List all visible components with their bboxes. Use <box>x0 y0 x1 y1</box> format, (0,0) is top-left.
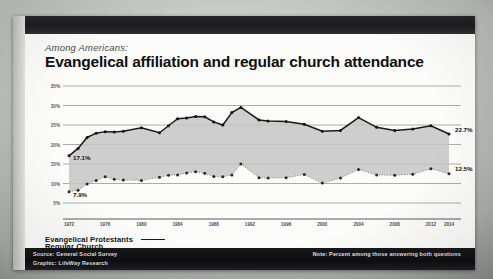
x-axis-tick-label: 1976 <box>100 222 111 226</box>
data-point <box>212 120 215 123</box>
page-title: Evangelical affiliation and regular chur… <box>45 53 424 71</box>
data-point <box>258 176 261 179</box>
data-label: 17.1% <box>73 154 91 161</box>
slide-card: Among Americans: Evangelical affiliation… <box>13 16 475 270</box>
data-point <box>448 132 451 135</box>
footnote: Note: Percent among those answering both… <box>313 251 461 257</box>
slide-content: Among Americans: Evangelical affiliation… <box>25 34 475 248</box>
data-point <box>203 172 206 175</box>
data-point <box>113 131 116 134</box>
data-point <box>267 120 270 123</box>
data-point <box>185 116 188 119</box>
data-point <box>303 123 306 126</box>
data-point <box>357 168 360 171</box>
data-point <box>176 117 179 120</box>
data-point <box>122 130 125 133</box>
data-point <box>230 173 233 176</box>
y-axis-tick-label: 15% <box>51 162 60 167</box>
slide-top-band <box>25 16 475 34</box>
data-point <box>221 124 224 127</box>
y-axis-tick-label: 25% <box>51 123 60 128</box>
data-point <box>393 129 396 132</box>
data-point <box>285 120 288 123</box>
legend-solid-line-icon <box>141 236 167 244</box>
x-axis-tick-label: 2004 <box>353 222 364 226</box>
data-point <box>339 129 342 132</box>
data-point <box>203 115 206 118</box>
data-point <box>393 174 396 177</box>
data-point <box>429 167 432 170</box>
data-label: 22.7% <box>455 126 473 133</box>
slide-footer: Source: General Social Survey Graphic: L… <box>25 248 475 270</box>
data-point <box>104 175 107 178</box>
y-axis-tick-label: 5% <box>53 201 60 206</box>
graphic-credit-line: Graphic: LifeWay Research <box>33 259 117 268</box>
source-line: Source: General Social Survey <box>33 250 117 259</box>
data-point <box>158 131 161 134</box>
data-point <box>176 173 179 176</box>
x-axis-tick-label: 2014 <box>444 222 455 226</box>
data-point <box>267 177 270 180</box>
data-point <box>158 176 161 179</box>
data-point <box>212 175 215 178</box>
data-label: 12.5% <box>455 165 473 172</box>
data-point <box>95 179 98 182</box>
data-point <box>86 182 89 185</box>
data-point <box>303 173 306 176</box>
data-point <box>140 126 143 129</box>
data-point <box>258 118 261 121</box>
data-point <box>357 116 360 119</box>
y-axis-tick-label: 20% <box>51 143 60 148</box>
data-point <box>239 106 242 109</box>
data-point <box>140 179 143 182</box>
slide-left-rail <box>13 16 25 270</box>
chart-plot-area: 35%30%25%20%15%10%5%19721976198019841988… <box>25 76 475 226</box>
data-point <box>429 124 432 127</box>
data-point <box>68 154 71 157</box>
data-point <box>230 111 233 114</box>
x-axis-tick-label: 1992 <box>245 222 256 226</box>
data-point <box>194 115 197 118</box>
data-point <box>375 126 378 129</box>
data-point <box>185 171 188 174</box>
data-point <box>68 190 71 193</box>
data-point <box>221 175 224 178</box>
y-axis-tick-label: 30% <box>51 104 60 109</box>
data-point <box>339 177 342 180</box>
source-credit: Source: General Social Survey Graphic: L… <box>33 250 117 267</box>
data-point <box>285 176 288 179</box>
line-chart: 35%30%25%20%15%10%5%19721976198019841988… <box>25 76 475 226</box>
data-point <box>375 173 378 176</box>
data-point <box>239 163 242 166</box>
x-axis-tick-label: 2008 <box>390 222 401 226</box>
x-axis-tick-label: 1996 <box>281 222 292 226</box>
kicker-text: Among Americans: <box>45 42 128 53</box>
x-axis-tick-label: 2000 <box>317 222 328 226</box>
data-point <box>411 173 414 176</box>
data-point <box>77 147 80 150</box>
data-point <box>167 174 170 177</box>
x-axis-tick-label: 1980 <box>136 222 147 226</box>
data-point <box>113 178 116 181</box>
data-point <box>194 170 197 173</box>
data-point <box>122 178 125 181</box>
data-point <box>321 130 324 133</box>
data-label: 7.9% <box>73 191 88 198</box>
y-axis-tick-label: 35% <box>51 84 60 89</box>
data-point <box>411 127 414 130</box>
data-point <box>321 182 324 185</box>
data-point <box>95 132 98 135</box>
x-axis-tick-label: 1972 <box>64 222 75 226</box>
data-point <box>167 124 170 127</box>
x-axis-tick-label: 1988 <box>209 222 220 226</box>
data-point <box>86 136 89 139</box>
x-axis-tick-label: 1984 <box>172 222 183 226</box>
x-axis-tick-label: 2012 <box>426 222 437 226</box>
data-point <box>448 172 451 175</box>
y-axis-tick-label: 10% <box>51 182 60 187</box>
data-point <box>104 130 107 133</box>
